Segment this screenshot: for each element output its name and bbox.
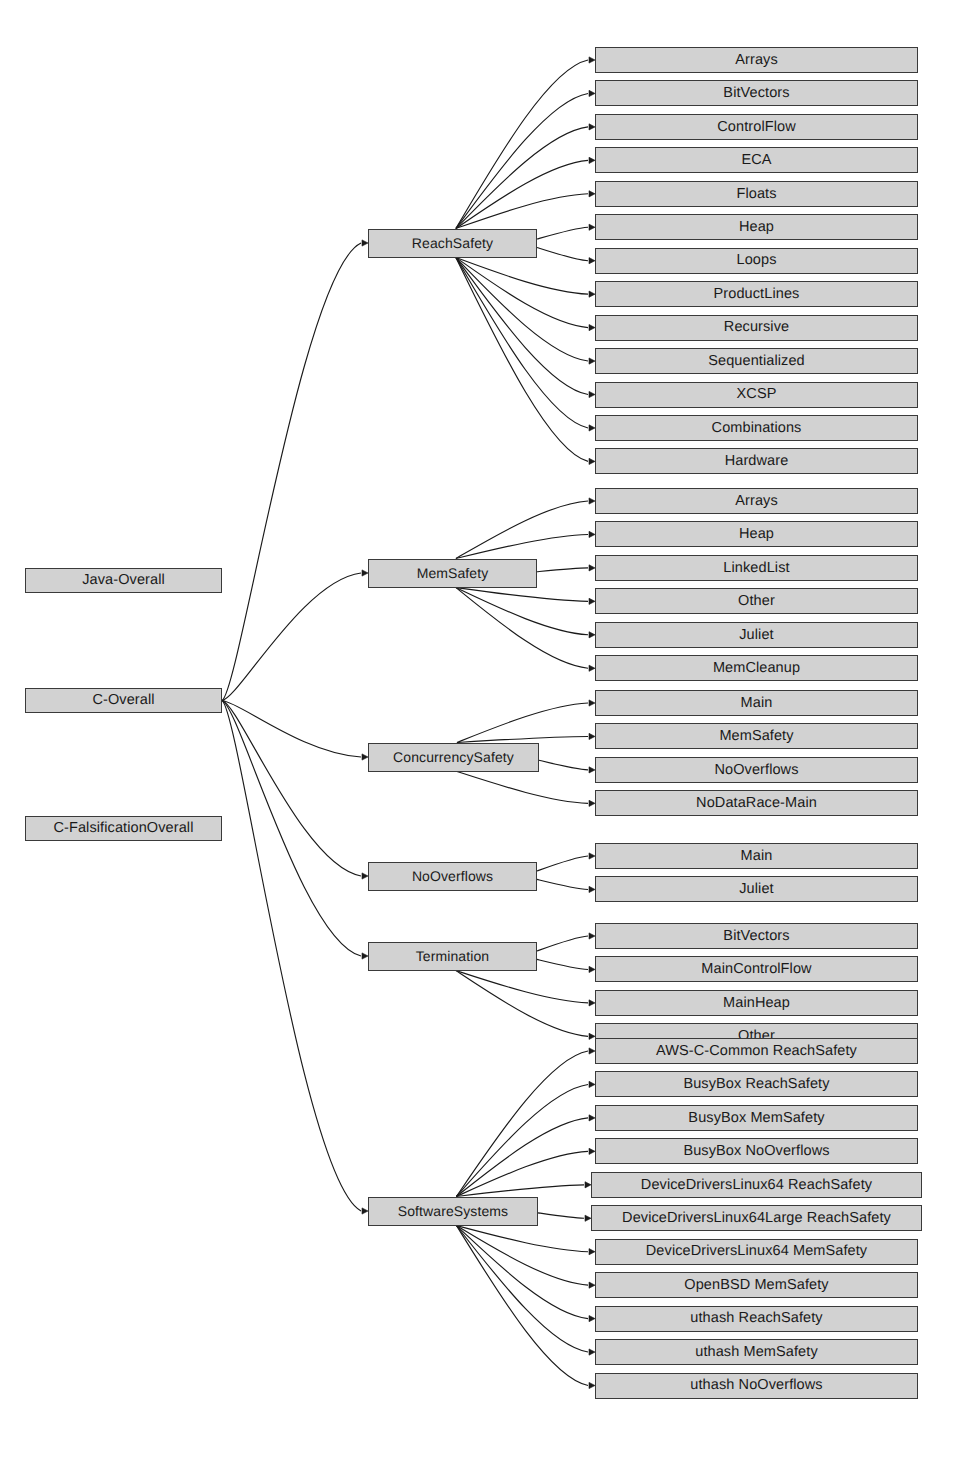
leaf-node-softwaresystems-0: AWS-C-Common ReachSafety: [595, 1038, 918, 1064]
edge-memsafety-to-leaf-3-line: [456, 588, 588, 602]
edge-c-overall-to-softwaresystems-line: [222, 701, 361, 1212]
node-label: Heap: [739, 527, 774, 542]
leaf-node-reachsafety-2: ControlFlow: [595, 114, 918, 140]
leaf-node-softwaresystems-7: OpenBSD MemSafety: [595, 1272, 918, 1298]
node-label: ECA: [741, 153, 771, 168]
leaf-node-memsafety-1: Heap: [595, 521, 918, 547]
node-label: uthash ReachSafety: [690, 1311, 822, 1326]
node-label: DeviceDriversLinux64 ReachSafety: [641, 1178, 872, 1193]
edge-concurrencysafety-to-leaf-3-line: [457, 772, 588, 804]
leaf-node-softwaresystems-1: BusyBox ReachSafety: [595, 1071, 918, 1097]
node-label: SoftwareSystems: [398, 1204, 508, 1218]
edge-softwaresystems-to-leaf-9-line: [456, 1226, 588, 1353]
edge-reachsafety-to-leaf-3-line: [456, 160, 588, 228]
node-label: Other: [738, 594, 775, 609]
node-label: XCSP: [737, 387, 777, 402]
group-node-reachsafety: ReachSafety: [368, 229, 537, 258]
node-label: Main: [741, 849, 773, 864]
leaf-node-softwaresystems-10: uthash NoOverflows: [595, 1373, 918, 1399]
node-label: Hardware: [725, 454, 789, 469]
diagram-canvas: Java-OverallC-OverallC-FalsificationOver…: [0, 0, 962, 1457]
node-label: Heap: [739, 220, 774, 235]
node-label: C-Overall: [92, 693, 154, 708]
leaf-node-reachsafety-10: XCSP: [595, 382, 918, 408]
edge-softwaresystems-to-leaf-0-line: [456, 1051, 588, 1197]
leaf-node-softwaresystems-8: uthash ReachSafety: [595, 1306, 918, 1332]
node-label: uthash MemSafety: [695, 1345, 818, 1360]
edge-reachsafety-to-leaf-9-line: [456, 258, 588, 362]
node-label: ProductLines: [714, 287, 800, 302]
edge-softwaresystems-to-leaf-6-line: [456, 1226, 588, 1252]
edge-memsafety-to-leaf-2-line: [537, 568, 588, 572]
leaf-node-softwaresystems-2: BusyBox MemSafety: [595, 1105, 918, 1131]
leaf-node-reachsafety-7: ProductLines: [595, 281, 918, 307]
edge-softwaresystems-to-leaf-7-line: [456, 1226, 588, 1286]
leaf-node-reachsafety-4: Floats: [595, 181, 918, 207]
node-label: ControlFlow: [717, 120, 795, 135]
node-label: C-FalsificationOverall: [54, 821, 194, 836]
node-label: Recursive: [724, 320, 789, 335]
leaf-node-memsafety-3: Other: [595, 588, 918, 614]
node-label: ReachSafety: [412, 236, 493, 250]
leaf-node-softwaresystems-6: DeviceDriversLinux64 MemSafety: [595, 1239, 918, 1265]
edge-softwaresystems-to-leaf-8-line: [456, 1226, 588, 1319]
node-label: MemCleanup: [713, 661, 800, 676]
leaf-node-reachsafety-8: Recursive: [595, 315, 918, 341]
edge-concurrencysafety-to-leaf-0-line: [457, 703, 588, 743]
edge-c-overall-to-termination-line: [222, 701, 361, 957]
node-label: uthash NoOverflows: [690, 1378, 822, 1393]
leaf-node-concurrencysafety-2: NoOverflows: [595, 757, 918, 783]
edge-softwaresystems-to-leaf-3-line: [456, 1151, 588, 1196]
edge-termination-to-leaf-0-line: [537, 936, 588, 951]
leaf-node-reachsafety-5: Heap: [595, 214, 918, 240]
leaf-node-reachsafety-3: ECA: [595, 147, 918, 173]
node-label: Java-Overall: [82, 573, 165, 588]
node-label: BitVectors: [723, 86, 789, 101]
leaf-node-reachsafety-1: BitVectors: [595, 80, 918, 106]
node-label: MainControlFlow: [701, 962, 811, 977]
edge-termination-to-leaf-1-line: [537, 959, 588, 969]
leaf-node-reachsafety-12: Hardware: [595, 448, 918, 474]
node-label: MainHeap: [723, 996, 790, 1011]
leaf-node-softwaresystems-9: uthash MemSafety: [595, 1339, 918, 1365]
leaf-node-termination-1: MainControlFlow: [595, 956, 918, 982]
edge-memsafety-to-leaf-4-line: [456, 588, 588, 635]
node-label: Floats: [736, 187, 776, 202]
edge-reachsafety-to-leaf-4-line: [456, 194, 588, 229]
edge-concurrencysafety-to-leaf-2-line: [539, 760, 588, 770]
edge-termination-to-leaf-3-line: [456, 971, 588, 1037]
edge-softwaresystems-to-leaf-5-line: [538, 1213, 584, 1218]
edge-reachsafety-to-leaf-6-line: [537, 247, 588, 260]
edge-memsafety-to-leaf-1-line: [456, 534, 588, 558]
node-label: BusyBox MemSafety: [688, 1111, 824, 1126]
node-label: OpenBSD MemSafety: [684, 1278, 828, 1293]
node-label: Termination: [416, 949, 489, 963]
leaf-node-softwaresystems-4: DeviceDriversLinux64 ReachSafety: [591, 1172, 922, 1198]
edge-softwaresystems-to-leaf-10-line: [456, 1226, 588, 1386]
edge-reachsafety-to-leaf-2-line: [456, 127, 588, 229]
node-label: Juliet: [739, 628, 773, 643]
leaf-node-memsafety-0: Arrays: [595, 488, 918, 514]
leaf-node-termination-2: MainHeap: [595, 990, 918, 1016]
group-node-termination: Termination: [368, 942, 537, 971]
edge-nooverflows-to-leaf-0-line: [537, 856, 588, 871]
node-label: MemSafety: [719, 729, 793, 744]
node-label: NoDataRace-Main: [696, 796, 817, 811]
edge-softwaresystems-to-leaf-2-line: [456, 1118, 588, 1197]
edge-softwaresystems-to-leaf-4-line: [456, 1185, 584, 1197]
leaf-node-memsafety-2: LinkedList: [595, 555, 918, 581]
root-node-java-overall: Java-Overall: [25, 568, 222, 593]
edge-reachsafety-to-leaf-12-line: [456, 258, 588, 462]
edge-reachsafety-to-leaf-0-line: [456, 60, 588, 229]
edge-c-overall-to-reachsafety-line: [222, 243, 361, 701]
node-label: Sequentialized: [708, 354, 805, 369]
edge-memsafety-to-leaf-5-line: [456, 588, 588, 669]
node-label: Main: [741, 696, 773, 711]
node-label: AWS-C-Common ReachSafety: [656, 1044, 857, 1059]
root-node-c-overall: C-Overall: [25, 688, 222, 713]
node-label: BusyBox ReachSafety: [683, 1077, 829, 1092]
leaf-node-softwaresystems-5: DeviceDriversLinux64Large ReachSafety: [591, 1205, 922, 1231]
leaf-node-reachsafety-6: Loops: [595, 248, 918, 274]
leaf-node-nooverflows-0: Main: [595, 843, 918, 869]
leaf-node-reachsafety-0: Arrays: [595, 47, 918, 73]
